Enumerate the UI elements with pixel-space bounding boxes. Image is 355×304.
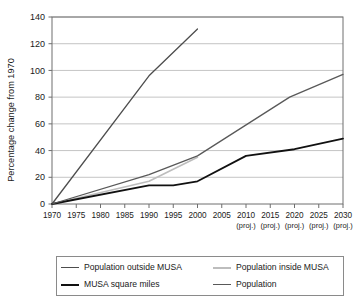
legend-label: Population [236, 280, 277, 289]
x-tick-label: 2025 [310, 211, 329, 220]
x-tick-label: 2020 [285, 211, 304, 220]
line-chart: 020406080100120140 197019751980198519901… [0, 0, 355, 250]
legend-label: Population inside MUSA [236, 263, 329, 272]
chart-figure: 020406080100120140 197019751980198519901… [0, 0, 355, 304]
x-tick-label: 1975 [67, 211, 86, 220]
x-tick-label: 2030 [334, 211, 353, 220]
y-tick-label: 80 [35, 92, 45, 102]
legend-color-swatch [61, 284, 79, 286]
x-axis-projection-labels: (proj.)(proj.)(proj.)(proj.)(proj.) [236, 221, 352, 230]
legend-color-swatch [213, 267, 231, 269]
series-line [52, 74, 343, 204]
y-tick-label: 120 [30, 39, 45, 49]
x-tick-label: 2005 [213, 211, 232, 220]
x-tick-projection-label: (proj.) [261, 221, 280, 230]
x-tick-projection-label: (proj.) [333, 221, 352, 230]
x-tick-label: 1980 [91, 211, 110, 220]
plot-frame [52, 17, 343, 204]
x-tick-label: 1990 [140, 211, 159, 220]
series-lines [52, 29, 343, 204]
x-tick-projection-label: (proj.) [285, 221, 304, 230]
y-axis-title: Percentage change from 1970 [6, 58, 16, 182]
x-tick-label: 1995 [164, 211, 183, 220]
x-tick-label: 1970 [43, 211, 62, 220]
legend-item: Population inside MUSA [213, 263, 349, 272]
x-axis-tick-labels: 1970197519801985199019952000200520102015… [43, 211, 353, 220]
x-tick-projection-label: (proj.) [309, 221, 328, 230]
legend-item: Population outside MUSA [61, 263, 213, 272]
y-tick-label: 0 [40, 199, 45, 209]
legend-color-swatch [213, 284, 231, 285]
legend-color-swatch [61, 267, 79, 268]
legend-label: Population outside MUSA [84, 263, 182, 272]
x-tick-label: 2010 [237, 211, 256, 220]
y-tick-label: 60 [35, 119, 45, 129]
x-axis-ticks [52, 204, 343, 208]
legend-label: MUSA square miles [84, 280, 159, 289]
grid-lines [52, 17, 343, 177]
series-line [52, 29, 198, 204]
legend-item: MUSA square miles [61, 280, 213, 289]
chart-legend: Population outside MUSAPopulation inside… [56, 256, 344, 296]
x-tick-projection-label: (proj.) [236, 221, 255, 230]
plot-area-border [52, 17, 343, 204]
x-tick-label: 1985 [116, 211, 135, 220]
x-tick-label: 2015 [261, 211, 280, 220]
y-tick-label: 40 [35, 146, 45, 156]
legend-item: Population [213, 280, 349, 289]
y-tick-label: 140 [30, 12, 45, 22]
y-tick-label: 100 [30, 66, 45, 76]
y-tick-label: 20 [35, 172, 45, 182]
x-tick-label: 2000 [188, 211, 207, 220]
y-axis-tick-labels: 020406080100120140 [30, 12, 52, 209]
